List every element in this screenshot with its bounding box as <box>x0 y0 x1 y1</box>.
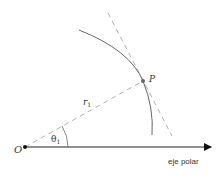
point-p <box>141 79 145 83</box>
point-p-label: P <box>148 74 156 84</box>
axis-label: eje polar <box>168 157 199 166</box>
origin-point <box>23 145 27 149</box>
angle-label-sub: 1 <box>56 138 60 145</box>
radius-label-sub: 1 <box>87 101 91 108</box>
polar-coordinates-diagram: O P r1 θ1 eje polar <box>0 0 222 180</box>
angle-arc <box>62 126 68 147</box>
polar-curve <box>79 30 152 135</box>
origin-label: O <box>14 144 22 155</box>
radius-label: r1 <box>83 97 91 108</box>
angle-label: θ1 <box>51 134 60 145</box>
radius-line <box>25 81 143 147</box>
